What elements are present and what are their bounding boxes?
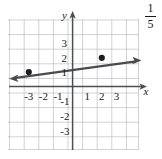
y-tick-label-2: 2 xyxy=(62,52,68,64)
slope-fraction-annotation: 1 5 xyxy=(145,2,156,30)
plot-background xyxy=(8,19,139,150)
y-axis-label: y xyxy=(61,9,67,21)
x-tick-label-1: 1 xyxy=(84,90,90,102)
x-tick-label-neg2: -2 xyxy=(39,90,48,102)
coordinate-plane-svg: -3 -2 -1 1 2 3 3 2 1 -1 -2 -3 x y xyxy=(0,0,162,159)
y-tick-label-1: 1 xyxy=(62,66,68,78)
fraction-denominator: 5 xyxy=(145,18,156,31)
y-tick-label-3: 3 xyxy=(62,37,68,49)
y-tick-label-neg3: -3 xyxy=(60,125,70,137)
x-tick-label-3: 3 xyxy=(114,90,120,102)
data-point-left xyxy=(26,69,32,75)
fraction-numerator: 1 xyxy=(145,2,156,15)
y-tick-label-neg1: -1 xyxy=(60,95,69,107)
x-tick-label-2: 2 xyxy=(99,90,105,102)
x-tick-label-neg3: -3 xyxy=(24,90,34,102)
y-tick-label-neg2: -2 xyxy=(60,110,69,122)
x-axis-label: x xyxy=(143,85,149,97)
graph-figure: -3 -2 -1 1 2 3 3 2 1 -1 -2 -3 x y 1 5 xyxy=(0,0,162,159)
data-point-right xyxy=(99,55,105,61)
